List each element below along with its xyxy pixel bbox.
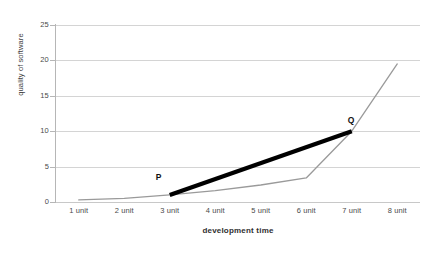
y-tick-label-5: 5 — [5, 163, 49, 171]
x-axis-title: development time — [56, 226, 420, 236]
y-tick-label-25: 25 — [5, 21, 49, 29]
x-tick-label-4: 4 unit — [193, 206, 239, 220]
x-tick-label-1: 1 unit — [56, 206, 102, 220]
y-tick-mark-15 — [50, 96, 55, 97]
y-tick-label-20: 20 — [5, 56, 49, 64]
x-tick-label-8: 8 unit — [375, 206, 421, 220]
x-tick-label-2: 2 unit — [102, 206, 148, 220]
chart-container: quality of software 25 20 15 10 5 0 P Q … — [0, 0, 436, 255]
x-tick-label-3: 3 unit — [147, 206, 193, 220]
y-tick-mark-20 — [50, 60, 55, 61]
y-tick-mark-5 — [50, 167, 55, 168]
y-tick-mark-0 — [50, 202, 55, 203]
series-layer — [56, 25, 420, 202]
plot-area: P Q — [56, 25, 420, 202]
annotation-label-p: P — [156, 173, 162, 182]
y-tick-label-15: 15 — [5, 92, 49, 100]
y-tick-label-10: 10 — [5, 127, 49, 135]
gridline-0 — [56, 202, 420, 203]
y-tick-mark-10 — [50, 131, 55, 132]
x-tick-label-6: 6 unit — [284, 206, 330, 220]
y-tick-mark-25 — [50, 25, 55, 26]
x-tick-label-7: 7 unit — [329, 206, 375, 220]
x-tick-label-5: 5 unit — [238, 206, 284, 220]
annotation-label-q: Q — [348, 116, 355, 125]
x-axis-ticks: 1 unit 2 unit 3 unit 4 unit 5 unit 6 uni… — [56, 206, 420, 220]
y-tick-label-0: 0 — [5, 198, 49, 206]
y-axis-ticks: 25 20 15 10 5 0 — [0, 25, 49, 202]
